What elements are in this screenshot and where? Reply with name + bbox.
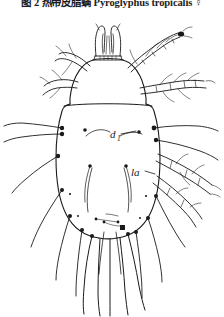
label-la-text: la <box>131 166 140 178</box>
leg-I-left <box>55 44 90 75</box>
label-d1-text: d <box>110 128 116 140</box>
posterior-setae <box>83 232 145 316</box>
label-d1-subscript: 1 <box>117 134 121 143</box>
dorsal-setae-right <box>134 126 218 298</box>
label-la: la <box>131 166 140 178</box>
gnathosoma <box>94 24 122 60</box>
body-outline <box>56 59 160 239</box>
leg-IV-right <box>153 176 202 227</box>
leg-II-right <box>140 73 215 102</box>
label-d1: d 1 <box>110 128 121 143</box>
figure-page: 图 2 热带皮脂螨 Pyroglyphus tropicalis ♀ <box>0 0 224 317</box>
mite-drawing-svg: d 1 la <box>0 8 224 317</box>
leg-III-right <box>156 154 221 197</box>
dorsal-setae-medial <box>69 128 147 230</box>
leader-line-la <box>145 171 155 174</box>
dorsal-setae-left <box>4 123 84 296</box>
leg-I-right <box>128 27 192 72</box>
mite-illustration: d 1 la <box>0 8 224 317</box>
figure-caption-text: 图 2 热带皮脂螨 Pyroglyphus tropicalis ♀ <box>21 0 202 8</box>
